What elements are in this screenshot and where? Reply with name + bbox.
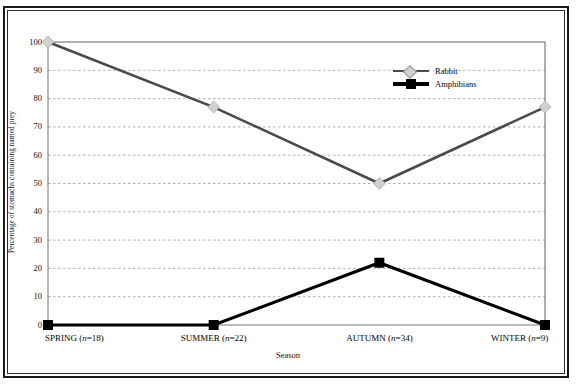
legend-item-amphibians[interactable]: Amphibians xyxy=(393,77,477,90)
y-tick-label: 100 xyxy=(16,38,42,47)
y-tick-label: 70 xyxy=(16,122,42,131)
square-marker-icon xyxy=(393,78,429,90)
diamond-marker-icon xyxy=(393,65,429,77)
legend-label-rabbit: Rabbit xyxy=(435,66,458,76)
legend-item-rabbit[interactable]: Rabbit xyxy=(393,64,477,77)
y-tick-label: 0 xyxy=(16,321,42,330)
x-axis-title: Season xyxy=(0,350,576,360)
y-tick-label: 60 xyxy=(16,151,42,160)
chart-legend: Rabbit Amphibians xyxy=(393,64,477,90)
y-tick-label: 40 xyxy=(16,207,42,216)
x-tick-label: WINTER (n=9) xyxy=(491,333,548,344)
x-tick-label: SPRING (n=18) xyxy=(45,333,104,344)
x-tick-label: SUMMER (n=22) xyxy=(181,333,247,344)
y-axis-title: Percentage of stomachs containing named … xyxy=(8,92,16,272)
x-tick-label: AUTUMN (n=34) xyxy=(346,333,412,344)
y-tick-label: 20 xyxy=(16,264,42,273)
y-tick-label: 30 xyxy=(16,236,42,245)
legend-label-amphibians: Amphibians xyxy=(435,79,477,89)
gridlines-group xyxy=(48,70,545,296)
y-tick-label: 90 xyxy=(16,66,42,75)
y-tick-label: 50 xyxy=(16,179,42,188)
line-chart-plot xyxy=(0,0,576,384)
y-tick-label: 80 xyxy=(16,94,42,103)
y-tick-label: 10 xyxy=(16,292,42,301)
